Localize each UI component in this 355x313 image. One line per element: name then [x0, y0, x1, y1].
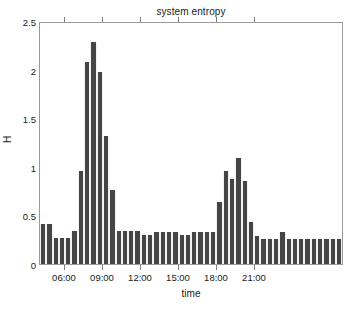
x-tick-label: 21:00 — [224, 272, 284, 283]
x-tick-mark — [178, 265, 179, 270]
x-axis-label: time — [39, 288, 343, 299]
x-tick-mark — [216, 265, 217, 270]
y-tick-label: 1.5 — [0, 114, 36, 125]
x-tick-mark — [140, 265, 141, 270]
x-tick-mark — [102, 265, 103, 270]
chart-title: system entropy — [39, 6, 343, 17]
plot-area — [39, 22, 343, 265]
bars-layer — [40, 23, 342, 264]
y-tick-label: 0 — [0, 260, 36, 271]
bar — [336, 239, 342, 264]
x-tick-mark — [254, 265, 255, 270]
chart-figure: system entropy H time 00.511.522.5 06:00… — [0, 0, 355, 313]
x-tick-mark — [64, 265, 65, 270]
y-tick-label: 2 — [0, 65, 36, 76]
y-tick-label: 1 — [0, 162, 36, 173]
y-tick-label: 0.5 — [0, 211, 36, 222]
y-axis-label: H — [2, 136, 13, 143]
y-tick-label: 2.5 — [0, 17, 36, 28]
